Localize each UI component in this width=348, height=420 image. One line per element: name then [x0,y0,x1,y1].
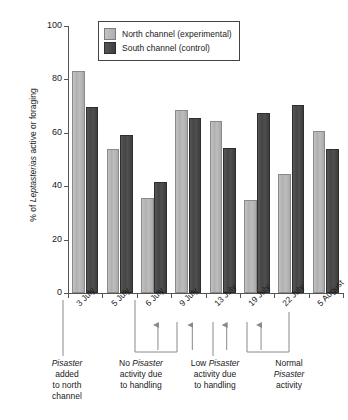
bar-south [326,149,339,293]
annotation-low-pisaster-activity: Low Pisasteractivity dueto handling [178,358,252,391]
x-tick-mark [68,293,69,298]
bar-south [86,107,99,293]
x-tick-mark [206,293,207,298]
x-tick-mark [171,293,172,298]
bar-north [107,149,120,293]
annotation-bracket [247,341,289,352]
bar-north [72,71,85,293]
annotation-line: Pisaster [30,358,104,369]
annotation-line: Low Pisaster [178,358,252,369]
y-tick-label: 0 [57,287,62,298]
annotation-line: added [30,369,104,380]
y-tick-label: 60 [52,127,62,138]
y-axis-line [68,26,69,293]
annotation-no-pisaster-activity: No Pisasteractivity dueto handling [104,358,178,391]
annotation-line: to north [30,380,104,391]
bar-north [141,198,154,293]
y-tick-label: 40 [52,180,62,191]
bar-north [278,174,291,293]
bar-south [154,182,167,293]
bar-south [120,135,133,293]
y-tick-mark [64,79,68,80]
x-tick-mark [274,293,275,298]
x-tick-mark [137,293,138,298]
bar-south [257,113,270,293]
plot-area: 020406080100 [68,26,343,293]
y-axis-label: % of Leptasterias active or foraging [28,60,38,250]
legend-label-south: South channel (control) [122,43,210,53]
legend-item-south: South channel (control) [104,42,232,54]
legend-swatch-north-icon [104,28,116,40]
bar-north [175,110,188,293]
y-tick-label: 100 [47,20,62,31]
bar-north [244,200,257,293]
x-tick-mark [343,293,344,298]
annotation-brackets [63,300,289,356]
bar-chart-figure: % of Leptasterias active or foraging 020… [0,0,348,420]
annotation-line: to handling [104,380,178,391]
y-tick-mark [64,133,68,134]
annotation-line: Normal [252,358,326,369]
category-arrows-icon [158,325,261,350]
y-tick-label: 80 [52,73,62,84]
y-axis-label-prefix: % of [28,202,38,221]
bar-north [313,131,326,293]
y-tick-mark [64,26,68,27]
annotation-line: activity due [178,369,252,380]
y-tick-mark [64,186,68,187]
annotation-line: No Pisaster [104,358,178,369]
bar-south [189,118,202,293]
x-tick-mark [309,293,310,298]
annotation-normal-pisaster-activity: NormalPisasteractivity [252,358,326,391]
annotation-pisaster-added: Pisasteraddedto northchannel [30,358,104,402]
y-tick-label: 20 [52,234,62,245]
annotation-bracket [135,347,177,352]
annotation-line: Pisaster [252,369,326,380]
bar-north [210,121,223,293]
annotation-line: channel [30,391,104,402]
legend: North channel (experimental) South chann… [98,21,240,61]
annotation-line: activity [252,380,326,391]
x-tick-mark [240,293,241,298]
bar-south [292,105,305,293]
annotation-line: activity due [104,369,178,380]
y-axis-label-italic: Leptasterias [28,156,38,202]
legend-item-north: North channel (experimental) [104,28,232,40]
y-axis-label-suffix: active or foraging [28,88,38,156]
x-tick-mark [102,293,103,298]
legend-swatch-south-icon [104,42,116,54]
y-tick-mark [64,240,68,241]
legend-label-north: North channel (experimental) [122,29,232,39]
bar-south [223,148,236,294]
annotation-line: to handling [178,380,252,391]
